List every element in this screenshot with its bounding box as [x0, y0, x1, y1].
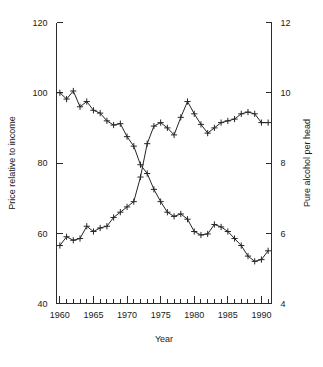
x-axis-tick-label: 1980	[184, 310, 204, 320]
x-axis-title: Year	[155, 334, 173, 344]
left-axis-title: Price relative to income	[7, 116, 17, 210]
x-axis-tick-label: 1990	[251, 310, 271, 320]
left-axis-tick-label: 80	[37, 158, 47, 168]
left-axis-tick-label: 60	[37, 229, 47, 239]
right-axis-tick-label: 4	[281, 299, 286, 309]
x-axis-tick-label: 1965	[83, 310, 103, 320]
x-axis-tick-label: 1975	[151, 310, 171, 320]
left-axis-tick-label: 40	[37, 299, 47, 309]
right-axis-tick-label: 10	[281, 88, 291, 98]
right-axis-tick-label: 8	[281, 158, 286, 168]
series-polyline	[60, 102, 268, 246]
x-axis-tick-label: 1985	[218, 310, 238, 320]
series-polyline	[60, 91, 268, 261]
right-axis: 4681012	[266, 18, 291, 309]
left-axis: 406080100120	[32, 18, 62, 309]
dual-axis-line-chart: 406080100120 4681012 1960196519701975198…	[0, 0, 323, 367]
x-axis-tick-label: 1960	[50, 310, 70, 320]
series-group	[57, 88, 271, 265]
x-axis-tick-label: 1970	[117, 310, 137, 320]
left-axis-tick-label: 120	[32, 18, 47, 28]
chart-container: 406080100120 4681012 1960196519701975198…	[0, 0, 323, 367]
series-1	[57, 88, 271, 265]
right-axis-tick-label: 12	[281, 18, 291, 28]
right-axis-tick-label: 6	[281, 229, 286, 239]
right-axis-title: Pure alcohol per head	[302, 119, 312, 207]
left-axis-tick-label: 100	[32, 88, 47, 98]
series-2	[57, 98, 271, 248]
bottom-axis: 1960196519701975198019851990	[50, 296, 272, 320]
